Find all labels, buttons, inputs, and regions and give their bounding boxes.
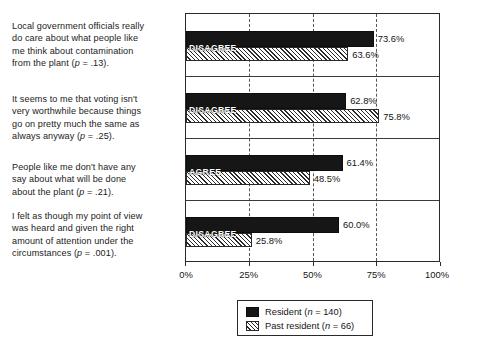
legend-resident-post: = 140) <box>313 307 342 317</box>
bar-group-row-2: DISAGREE 62.8% 75.8% <box>186 76 439 138</box>
legend-swatch-resident-icon <box>246 307 259 317</box>
x-tick-mark-25 <box>249 262 250 266</box>
x-tick-mark-0 <box>185 262 186 266</box>
statement-4-line-1: I felt as though my point of view <box>12 211 142 221</box>
survey-bar-chart-figure: Local government officials really do car… <box>0 0 479 341</box>
statement-3-line-4-pre: about the plant ( <box>12 187 79 197</box>
x-tick-label-0: 0% <box>179 270 193 279</box>
bar-value-past-resident-row-1: 63.6% <box>352 50 379 59</box>
statement-4-line-4-post: = .001). <box>82 248 116 258</box>
legend-entry-resident: Resident (n = 140) <box>246 307 342 317</box>
statement-3-line-1: People like me don't have any <box>12 162 136 172</box>
legend-label-past-resident: Past resident (n = 66) <box>265 321 354 331</box>
bar-value-past-resident-row-2: 75.8% <box>383 112 410 121</box>
bar-overlay-label-row-3: AGREE <box>189 167 221 177</box>
statement-3-line-2: say about what will be done <box>12 174 126 184</box>
statement-2-line-1: It seems to me that voting isn't <box>12 94 137 104</box>
bar-value-resident-row-2: 62.8% <box>350 96 377 105</box>
plot-area: DISAGREE 73.6% 63.6% DISAGREE 62.8% 75.8… <box>185 13 440 262</box>
statement-4-line-4-pre: circumstances ( <box>12 248 77 258</box>
legend-past-pre: Past resident ( <box>265 321 325 331</box>
x-tick-label-50: 50% <box>303 270 322 279</box>
statement-1-line-2: do care about what people like <box>12 33 138 43</box>
legend-entry-past-resident: Past resident (n = 66) <box>246 321 354 331</box>
statement-1-line-1: Local government officials really <box>12 21 144 31</box>
legend-swatch-past-resident-icon <box>246 321 259 331</box>
legend-past-post: = 66) <box>330 321 354 331</box>
x-tick-label-100: 100% <box>425 270 449 279</box>
statement-2-line-4-pre: always anyway ( <box>12 131 80 141</box>
bar-group-row-1: DISAGREE 73.6% 63.6% <box>186 14 439 76</box>
statement-1-line-3: me think about contamination <box>12 46 133 56</box>
statement-1-line-4-pre: from the plant ( <box>12 58 75 68</box>
statement-4-line-3: amount of attention under the <box>12 236 133 246</box>
bar-overlay-label-row-1: DISAGREE <box>189 43 237 53</box>
bar-value-resident-row-1: 73.6% <box>378 34 405 43</box>
bar-overlay-label-row-2: DISAGREE <box>189 105 237 115</box>
question-statement-4: I felt as though my point of view was he… <box>12 210 180 259</box>
bar-overlay-label-row-4: DISAGREE <box>189 229 237 239</box>
bar-value-resident-row-4: 60.0% <box>343 220 370 229</box>
statement-2-line-3: go on pretty much the same as <box>12 119 140 129</box>
statement-3-line-4-post: = .21). <box>84 187 113 197</box>
bar-group-row-3: AGREE 61.4% 48.5% <box>186 138 439 200</box>
statement-4-line-2: was heard and given the right <box>12 223 134 233</box>
question-statement-3: People like me don't have any say about … <box>12 161 180 198</box>
x-tick-label-25: 25% <box>239 270 258 279</box>
x-tick-mark-50 <box>313 262 314 266</box>
bar-group-row-4: DISAGREE 60.0% 25.8% <box>186 200 439 262</box>
legend-label-resident: Resident (n = 140) <box>265 307 342 317</box>
x-tick-mark-100 <box>440 262 441 266</box>
statement-2-line-2: very worthwhile because things <box>12 106 141 116</box>
chart-legend: Resident (n = 140) Past resident (n = 66… <box>237 300 373 336</box>
bar-value-resident-row-3: 61.4% <box>347 158 374 167</box>
legend-resident-pre: Resident ( <box>265 307 307 317</box>
x-tick-mark-75 <box>376 262 377 266</box>
x-tick-label-75: 75% <box>367 270 386 279</box>
question-statement-1: Local government officials really do car… <box>12 20 180 69</box>
statement-2-line-4-post: = .25). <box>85 131 114 141</box>
bar-value-past-resident-row-4: 25.8% <box>256 236 283 245</box>
statement-1-line-4-post: = .13). <box>80 58 109 68</box>
bar-value-past-resident-row-3: 48.5% <box>314 174 341 183</box>
question-statement-2: It seems to me that voting isn't very wo… <box>12 93 180 142</box>
